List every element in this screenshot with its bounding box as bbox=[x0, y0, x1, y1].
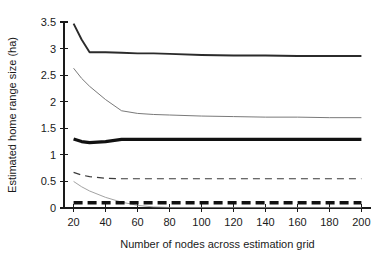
y-tick-label: 1.5 bbox=[41, 122, 56, 134]
y-tick-label: 0.5 bbox=[41, 175, 56, 187]
x-tick-label: 180 bbox=[320, 216, 338, 228]
x-tick-label: 140 bbox=[256, 216, 274, 228]
x-tick-label: 120 bbox=[224, 216, 242, 228]
x-tick-label: 80 bbox=[163, 216, 175, 228]
x-axis-tick-labels: 20406080100120140160180200 bbox=[67, 216, 370, 228]
x-tick-label: 40 bbox=[99, 216, 111, 228]
chart-figure: 00.511.522.533.5 20406080100120140160180… bbox=[0, 0, 384, 262]
x-tick-label: 160 bbox=[288, 216, 306, 228]
y-tick-label: 1 bbox=[50, 149, 56, 161]
x-tick-label: 100 bbox=[192, 216, 210, 228]
x-axis-title: Number of nodes across estimation grid bbox=[120, 238, 314, 250]
y-tick-label: 2 bbox=[50, 96, 56, 108]
x-tick-label: 200 bbox=[352, 216, 370, 228]
y-tick-label: 2.5 bbox=[41, 69, 56, 81]
series-line-second-thin-solid bbox=[74, 68, 362, 117]
series-line-upper-thick-solid bbox=[74, 24, 362, 56]
axis-frame bbox=[64, 22, 371, 208]
x-tick-label: 20 bbox=[67, 216, 79, 228]
data-series-group bbox=[74, 24, 362, 208]
y-tick-label: 3 bbox=[50, 43, 56, 55]
series-line-middle-heavy-solid bbox=[74, 139, 362, 143]
line-chart: 00.511.522.533.5 20406080100120140160180… bbox=[0, 0, 384, 262]
axis-lines bbox=[64, 22, 371, 208]
y-tick-label: 3.5 bbox=[41, 16, 56, 28]
y-axis-tick-labels: 00.511.522.533.5 bbox=[41, 16, 56, 214]
x-tick-label: 60 bbox=[131, 216, 143, 228]
series-line-thin-dashed bbox=[74, 172, 362, 178]
y-tick-label: 0 bbox=[50, 202, 56, 214]
y-axis-title: Estimated home range size (ha) bbox=[6, 37, 18, 193]
